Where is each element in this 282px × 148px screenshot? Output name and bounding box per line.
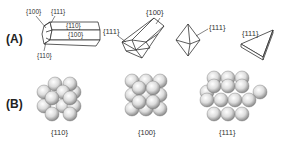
facet-label-111: {111} xyxy=(219,128,236,137)
sphere-packing-111 xyxy=(200,71,267,121)
sphere-packing-100 xyxy=(125,74,167,116)
bipyramid-outline xyxy=(122,18,164,58)
facet-label-110: {110} xyxy=(51,128,68,137)
rod-label-100-side: {100} xyxy=(68,31,84,39)
rod-label-100-end: {100} xyxy=(26,8,42,16)
rod-label-111: {111} xyxy=(51,8,66,16)
octahedron-outline xyxy=(176,24,200,56)
octahedron-label-111: {111} xyxy=(209,23,226,32)
bipyramid-crystal xyxy=(122,18,164,58)
bipyramid-label-100: {100} xyxy=(146,8,164,17)
rod-label-110-bottom: {110} xyxy=(37,52,53,60)
plate-label-111: {111} xyxy=(242,29,259,38)
panel-a-label: (A) xyxy=(6,32,23,46)
facet-label-100: {100} xyxy=(138,128,156,137)
rod-label-110-top: {110} xyxy=(66,22,82,30)
nanocrystal-facet-diagram: (A) {100} {111} {110} {100} {110} {111} xyxy=(0,0,282,148)
octahedron-crystal xyxy=(176,24,200,56)
panel-b-label: (B) xyxy=(6,97,23,111)
bipyramid-label-111: {111} xyxy=(103,27,120,36)
sphere-packing-110 xyxy=(37,77,81,121)
rod-bottom-face xyxy=(44,40,100,46)
